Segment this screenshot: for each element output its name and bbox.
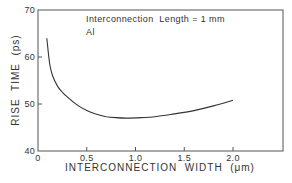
annotation-material: Al bbox=[86, 27, 95, 37]
y-axis-label: RISE TIME (ps) bbox=[10, 34, 21, 125]
y-tick-label: 50 bbox=[24, 99, 35, 109]
y-tick-label: 40 bbox=[24, 146, 35, 156]
x-axis-ticks: 00.51.01.52.0 bbox=[35, 147, 239, 163]
rise-time-curve bbox=[47, 38, 233, 118]
annotation-length: Interconnection Length = 1 mm bbox=[86, 14, 225, 24]
x-tick-label: 0 bbox=[35, 153, 40, 163]
y-axis-ticks: 40506070 bbox=[24, 5, 42, 156]
x-axis-label: INTERCONNECTION WIDTH (μm) bbox=[65, 162, 255, 173]
plot-frame bbox=[38, 10, 283, 151]
y-tick-label: 60 bbox=[24, 52, 35, 62]
plot-border bbox=[38, 10, 283, 151]
y-tick-label: 70 bbox=[24, 5, 35, 15]
rise-time-chart: 00.51.01.52.0 40506070 Interconnection L… bbox=[0, 0, 292, 183]
